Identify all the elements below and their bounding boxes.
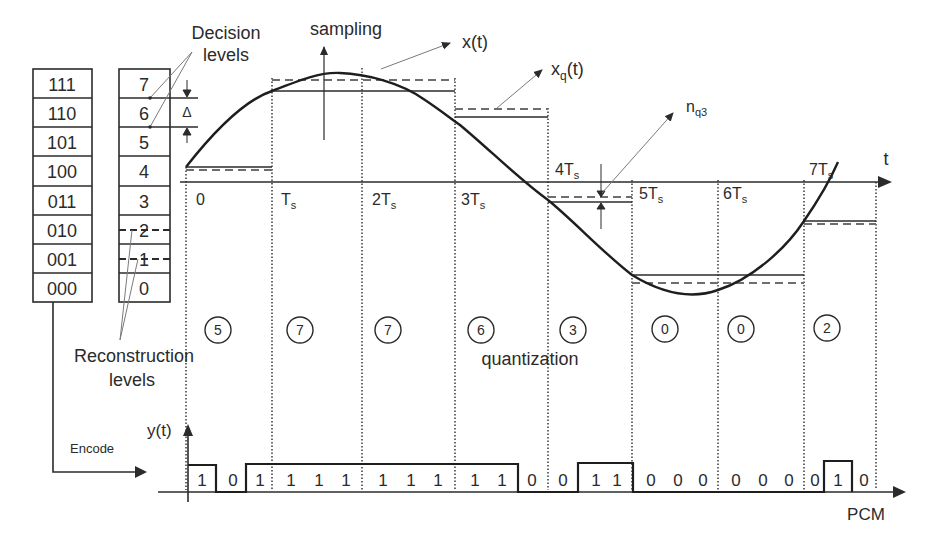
svg-text:1: 1	[612, 471, 621, 490]
reconstruction-levels-label-line2: levels	[109, 370, 155, 390]
svg-text:2: 2	[823, 320, 831, 336]
level-4: 4	[139, 162, 149, 182]
encode-label: Encode	[70, 441, 114, 456]
level-7: 7	[139, 75, 149, 95]
svg-text:1: 1	[378, 471, 387, 490]
quantized-sample-values: 5 7 7 6 3 0 0 2	[214, 320, 831, 338]
level-5: 5	[139, 133, 149, 153]
svg-text:5: 5	[214, 322, 222, 338]
code-001: 001	[47, 250, 77, 270]
svg-text:1: 1	[197, 471, 206, 490]
svg-text:1: 1	[286, 471, 295, 490]
svg-text:0: 0	[731, 471, 740, 490]
pcm-bits: 1 0 1 1 1 1 1 1 1 1 1 0 0 1 1 0 0 0 0 0 …	[197, 471, 868, 490]
svg-text:1: 1	[470, 471, 479, 490]
svg-text:0: 0	[810, 471, 819, 490]
time-axis-label: t	[883, 149, 888, 169]
sampling-label: sampling	[310, 19, 382, 39]
sample-gridlines	[186, 68, 876, 490]
x-leader	[381, 43, 450, 69]
svg-text:0: 0	[859, 471, 868, 490]
svg-text:1: 1	[497, 471, 506, 490]
tick-0: 0	[196, 191, 205, 208]
level-1: 1	[139, 250, 149, 270]
level-3: 3	[139, 192, 149, 212]
y-axis-arrow-icon	[183, 424, 193, 436]
svg-text:7: 7	[296, 322, 304, 338]
tick-ts: Ts	[281, 191, 297, 211]
svg-text:3: 3	[569, 322, 577, 338]
svg-text:1: 1	[406, 471, 415, 490]
tick-3ts: 3Ts	[461, 191, 486, 211]
code-000: 000	[47, 279, 77, 299]
decision-levels-label-line1: Decision	[191, 23, 260, 43]
encode-arrow-icon	[135, 466, 147, 478]
svg-text:0: 0	[228, 471, 237, 490]
tick-6ts: 6Ts	[723, 185, 748, 205]
svg-text:1: 1	[833, 471, 842, 490]
pcm-diagram: 111 110 101 100 011 010 001 000 7 6 5 4 …	[0, 0, 930, 545]
code-table-labels: 111 110 101 100 011 010 001 000	[47, 75, 77, 299]
svg-text:6: 6	[477, 322, 485, 338]
reconstruction-levels-label-line1: Reconstruction	[74, 346, 194, 366]
nq3-label: nq3	[686, 98, 707, 118]
quantization-label: quantization	[481, 349, 578, 369]
code-010: 010	[47, 221, 77, 241]
svg-text:0: 0	[646, 471, 655, 490]
time-tick-labels: 0 Ts 2Ts 3Ts 4Ts 5Ts 6Ts 7Ts	[196, 161, 834, 211]
decision-levels-label-line2: levels	[203, 45, 249, 65]
code-101: 101	[47, 133, 77, 153]
xq-t-label: xq(t)	[551, 59, 584, 83]
code-011: 011	[48, 192, 77, 212]
x-t-label: x(t)	[462, 32, 488, 52]
svg-text:1: 1	[341, 471, 350, 490]
reconstruction-leaders	[120, 230, 138, 340]
delta-label: Δ	[182, 104, 191, 120]
analog-signal-x	[186, 73, 838, 294]
code-110: 110	[48, 104, 77, 124]
y-t-label: y(t)	[147, 421, 172, 440]
svg-text:0: 0	[558, 471, 567, 490]
tick-2ts: 2Ts	[372, 191, 397, 211]
svg-text:1: 1	[433, 471, 442, 490]
svg-text:1: 1	[255, 471, 264, 490]
time-axis-arrow-icon	[878, 176, 892, 188]
svg-text:0: 0	[784, 471, 793, 490]
level-table-labels: 7 6 5 4 3 2 1 0	[139, 75, 149, 299]
sampled-levels	[186, 91, 876, 275]
svg-text:1: 1	[314, 471, 323, 490]
tick-5ts: 5Ts	[639, 185, 664, 205]
pcm-label: PCM	[847, 505, 885, 524]
nq3-leader	[602, 113, 673, 193]
level-6: 6	[139, 104, 149, 124]
svg-text:0: 0	[698, 471, 707, 490]
svg-text:0: 0	[661, 321, 669, 337]
pcm-axis-arrow-icon	[893, 486, 906, 498]
svg-text:0: 0	[527, 471, 536, 490]
level-0: 0	[139, 279, 149, 299]
xq-leader	[497, 70, 542, 108]
tick-4ts: 4Ts	[555, 161, 580, 181]
svg-text:0: 0	[673, 471, 682, 490]
svg-text:0: 0	[758, 471, 767, 490]
svg-text:7: 7	[384, 322, 392, 338]
level-2: 2	[139, 221, 149, 241]
svg-text:0: 0	[737, 321, 745, 337]
code-111: 111	[48, 75, 75, 95]
code-100: 100	[47, 162, 77, 182]
svg-text:1: 1	[591, 471, 600, 490]
